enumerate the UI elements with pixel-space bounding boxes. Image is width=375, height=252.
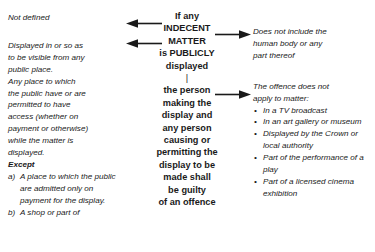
center-line-any-person: any person [134,122,240,134]
not-defined-text: Not defined [8,12,126,24]
center-line-causing-or: causing or [134,134,240,146]
human-body-line-3: part thereof [253,50,373,62]
human-body-line-2: human body or any [253,38,373,50]
displayed-definition-line-5: the public have or are [8,88,126,100]
bullet-icon: • [254,152,257,164]
exception-marker-a: a) [8,171,15,183]
arrow-right-to-exemptions-icon [215,90,251,99]
center-line-displayed: displayed [134,60,240,72]
right-annotations-column: Does not include the human body or any p… [253,26,373,200]
except-label: Except [8,159,126,171]
exceptions-list: a) A place to which the public are admit… [8,171,126,219]
offence-lead-line-1: The offence does not [253,81,373,93]
left-annotations-column: Not defined Displayed in or so as to be … [8,12,126,219]
displayed-definition-line-3: public place. [8,64,126,76]
list-item: b) A shop or part of [8,207,126,219]
center-line-display-and: display and [134,109,240,121]
center-line-be-guilty: be guilty [134,184,240,196]
bullet-icon: • [254,176,257,188]
displayed-definition-note: Displayed in or so as to be visible from… [8,40,126,159]
exception-text-a: A place to which the public are admitted… [20,172,116,205]
center-line-is-publicly: is PUBLICLY [134,47,240,59]
center-line-permitting-the: permitting the [134,146,240,158]
list-item: • Part of the performance of a play [253,152,373,176]
list-item: a) A place to which the public are admit… [8,171,126,207]
displayed-definition-line-8: payment or otherwise) [8,123,126,135]
list-item: • In an art gallery or museum [253,116,373,128]
displayed-definition-line-9: while the matter is [8,135,126,147]
exemptions-list: • In a TV broadcast • In an art gallery … [253,105,373,200]
list-item: • Part of a licensed cinema exhibition [253,176,373,200]
offence-exemption-lead: The offence does not apply to matter: [253,81,373,105]
not-defined-note: Not defined [8,12,126,24]
displayed-definition-line-4: Any place to which [8,76,126,88]
list-item: • Displayed by the Crown or local author… [253,128,373,152]
human-body-line-1: Does not include the [253,26,373,38]
displayed-definition-line-7: access (whether on [8,111,126,123]
arrow-left-to-displayed-definition-icon [126,39,162,48]
displayed-definition-line-10: displayed. [8,147,126,159]
human-body-note: Does not include the human body or any p… [253,26,373,62]
list-item: • In a TV broadcast [253,105,373,117]
offence-lead-line-2: apply to matter: [253,93,373,105]
center-line-of-an-offence: of an offence [134,196,240,208]
exception-text-b: A shop or part of [20,208,80,217]
exemption-text-5: Part of a licensed cinema exhibition [263,177,354,198]
bullet-icon: • [254,128,257,140]
center-line-made-shall: made shall [134,171,240,183]
displayed-definition-line-1: Displayed in or so as [8,40,126,52]
exception-marker-b: b) [8,207,15,219]
exemption-text-1: In a TV broadcast [263,106,327,115]
arrow-right-to-human-body-note-icon [215,30,251,39]
bullet-icon: • [254,116,257,128]
arrow-left-to-not-defined-icon [126,19,162,28]
exemption-text-3: Displayed by the Crown or local authorit… [263,129,358,150]
exemption-text-2: In an art gallery or museum [263,117,362,126]
exemption-text-4: Part of the performance of a play [263,153,364,174]
center-line-display-to-be: display to be [134,159,240,171]
bullet-icon: • [254,105,257,117]
displayed-definition-line-6: permitted to have [8,99,126,111]
indecent-display-flow-diagram: Not defined Displayed in or so as to be … [0,0,375,252]
displayed-definition-line-2: to be visible from any [8,52,126,64]
vertical-connector: | [134,72,240,84]
